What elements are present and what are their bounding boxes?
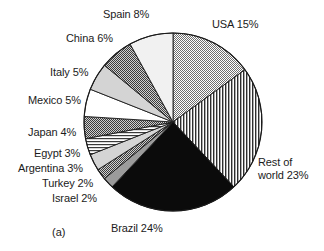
pie-label-egypt-3: Egypt 3% [34, 147, 80, 160]
pie-chart-figure: USA 15%Rest of world 23%Brazil 24%Israel… [0, 0, 324, 251]
pie-label-argentina-3: Argentina 3% [18, 162, 83, 175]
pie-label-italy-5: Italy 5% [50, 66, 88, 79]
pie-label-turkey-2: Turkey 2% [42, 177, 93, 190]
pie-label-israel-2: Israel 2% [52, 192, 97, 205]
pie-label-mexico-5: Mexico 5% [28, 94, 81, 107]
pie-label-brazil-24: Brazil 24% [111, 222, 163, 235]
pie-label-china-6: China 6% [66, 32, 113, 45]
pie-label-rest-of-world-23: Rest of world 23% [258, 156, 316, 182]
pie-label-japan-4: Japan 4% [28, 126, 76, 139]
pie-label-spain-8: Spain 8% [103, 8, 149, 21]
figure-caption: (a) [52, 226, 65, 238]
pie-slice-group: USA 15%Rest of world 23%Brazil 24%Israel… [84, 33, 262, 211]
pie-label-usa-15: USA 15% [212, 18, 258, 31]
